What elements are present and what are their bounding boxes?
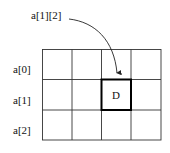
row-label-2: a[2]: [13, 124, 31, 136]
pointer-label: a[1][2]: [31, 9, 62, 21]
pointer-arrow: [69, 19, 117, 73]
row-label-1: a[1]: [13, 94, 31, 106]
row-label-0: a[0]: [13, 63, 31, 75]
cell-value-d: D: [112, 89, 120, 101]
